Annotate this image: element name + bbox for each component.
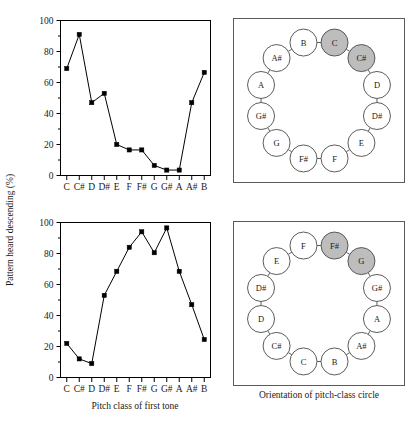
y-tick-label: 80 xyxy=(44,47,54,57)
pitch-class-node: A# xyxy=(348,332,375,359)
x-tick-label: D# xyxy=(98,384,110,394)
x-tick-label: D xyxy=(88,384,95,394)
x-tick-label: G xyxy=(151,384,158,394)
data-point-marker xyxy=(90,101,94,105)
data-point-marker xyxy=(152,251,156,255)
data-point-marker xyxy=(127,148,131,152)
data-point-marker xyxy=(102,293,106,297)
pitch-class-node: C xyxy=(290,348,317,375)
data-point-marker xyxy=(190,303,194,307)
bottom-chart-series-line xyxy=(67,228,205,364)
pitch-class-node-label: A xyxy=(258,80,265,90)
pitch-class-node: E xyxy=(348,129,375,156)
y-tick-label: 40 xyxy=(44,109,54,119)
pitch-class-node: B xyxy=(290,29,317,56)
top-chart-series-line xyxy=(67,34,205,170)
pitch-class-node-label: A xyxy=(374,314,381,324)
data-point-marker xyxy=(65,341,69,345)
bottom-chart-yticks xyxy=(57,223,61,378)
x-tick-label: E xyxy=(114,182,120,192)
pitch-class-node-label: E xyxy=(274,256,279,266)
top-chart-xticks xyxy=(67,176,205,181)
pitch-class-node: D# xyxy=(363,103,390,130)
y-tick-label: 20 xyxy=(44,342,54,352)
pitch-class-node: C xyxy=(321,29,348,56)
figure-root: Pattern heard descending (%) 02040608010… xyxy=(0,0,413,432)
data-point-marker xyxy=(152,163,156,167)
data-point-marker xyxy=(202,70,206,74)
x-tick-label: A xyxy=(176,182,183,192)
pitch-class-node: A xyxy=(363,306,390,333)
pitch-class-node: G# xyxy=(363,274,390,301)
data-point-marker xyxy=(190,101,194,105)
y-tick-label: 60 xyxy=(44,280,54,290)
pitch-class-node: D xyxy=(248,306,275,333)
y-tick-label: 0 xyxy=(49,373,54,383)
x-tick-label: G# xyxy=(161,384,173,394)
pitch-class-node: A xyxy=(248,71,275,98)
data-point-marker xyxy=(115,142,119,146)
data-point-marker xyxy=(127,245,131,249)
data-point-marker xyxy=(140,148,144,152)
pitch-class-node-label: G xyxy=(274,138,280,148)
data-point-marker xyxy=(140,230,144,234)
top-chart-frame xyxy=(61,21,211,176)
top-pitch-class-circle-panel: CC#DD#EFF#GG#AA#B xyxy=(234,19,405,183)
y-tick-label: 40 xyxy=(44,311,54,321)
pitch-class-node-label: C# xyxy=(272,341,283,351)
x-tick-label: A# xyxy=(186,182,198,192)
pitch-class-node: B xyxy=(321,348,348,375)
pitch-class-node-label: D# xyxy=(372,111,383,121)
x-tick-label: G xyxy=(151,182,158,192)
pitch-class-node: F# xyxy=(321,232,348,259)
x-axis-label: Pitch class of first tone xyxy=(91,401,178,411)
top-chart-markers xyxy=(65,32,207,172)
pitch-class-node-label: B xyxy=(332,357,338,367)
data-point-marker xyxy=(202,337,206,341)
x-tick-label: C xyxy=(64,384,70,394)
top-line-chart: 020406080100 CC#DD#EFF#GG#AA#B xyxy=(39,16,210,192)
pitch-class-node-label: C# xyxy=(356,53,367,63)
x-tick-label: E xyxy=(114,384,120,394)
x-tick-label: F xyxy=(127,384,132,394)
right-panel-caption: Orientation of pitch-class circle xyxy=(259,390,379,400)
data-point-marker xyxy=(177,269,181,273)
x-tick-label: A# xyxy=(186,384,198,394)
data-point-marker xyxy=(90,361,94,365)
y-tick-label: 100 xyxy=(39,218,54,228)
y-axis-label: Pattern heard descending (%) xyxy=(5,174,16,286)
x-tick-label: B xyxy=(201,384,207,394)
data-point-marker xyxy=(165,168,169,172)
x-tick-label: F xyxy=(127,182,132,192)
y-tick-label: 80 xyxy=(44,249,54,259)
bottom-line-chart: 020406080100 CC#DD#EFF#GG#AA#B xyxy=(39,218,210,394)
data-point-marker xyxy=(77,32,81,36)
pitch-class-node: D xyxy=(363,71,390,98)
top-chart-xtick-labels: CC#DD#EFF#GG#AA#B xyxy=(64,182,208,192)
x-tick-label: F# xyxy=(137,182,147,192)
pitch-class-node-label: D# xyxy=(256,283,267,293)
bottom-chart-xtick-labels: CC#DD#EFF#GG#AA#B xyxy=(64,384,208,394)
bottom-chart-xticks xyxy=(67,378,205,383)
data-point-marker xyxy=(65,66,69,70)
x-tick-label: G# xyxy=(161,182,173,192)
pitch-class-node-label: A# xyxy=(356,341,367,351)
pitch-class-node: D# xyxy=(248,274,275,301)
bottom-chart-frame xyxy=(61,223,211,378)
pitch-class-node-label: D xyxy=(374,80,380,90)
x-tick-label: F# xyxy=(137,384,147,394)
pitch-class-node: G xyxy=(263,129,290,156)
pitch-class-node-label: G# xyxy=(372,283,383,293)
data-point-marker xyxy=(177,168,181,172)
y-tick-label: 0 xyxy=(49,171,54,181)
pitch-class-node: E xyxy=(263,248,290,275)
y-tick-label: 20 xyxy=(44,140,54,150)
pitch-class-node: G# xyxy=(248,103,275,130)
pitch-class-node: G xyxy=(348,248,375,275)
pitch-class-node-label: F xyxy=(301,241,306,251)
data-point-marker xyxy=(102,91,106,95)
pitch-class-node-label: B xyxy=(301,38,307,48)
bottom-panel-border xyxy=(234,222,405,386)
figure-svg: Pattern heard descending (%) 02040608010… xyxy=(0,0,413,432)
pitch-class-node-label: E xyxy=(359,138,364,148)
